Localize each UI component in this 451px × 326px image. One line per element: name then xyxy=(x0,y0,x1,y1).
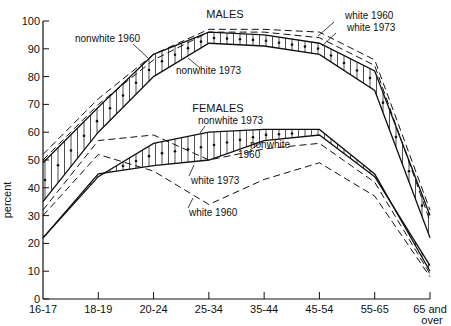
y-tick-label: 10 xyxy=(28,265,40,277)
hatch-dot xyxy=(278,133,281,136)
hatch-dot xyxy=(148,155,151,158)
male-white-1960-label: white 1960 xyxy=(344,10,394,21)
female-nonwhite-1960-label-b: 1960 xyxy=(238,149,261,160)
hatch-dot xyxy=(96,120,99,123)
male-white-1973-label: white 1973 xyxy=(346,22,396,33)
y-axis-label: percent xyxy=(1,182,13,219)
hatch-dot xyxy=(408,170,411,173)
hatch-dot xyxy=(239,139,242,142)
hatch-dot xyxy=(304,45,307,48)
hatch-dot xyxy=(70,149,73,152)
y-tick-label: 80 xyxy=(28,71,40,83)
females-white-1973-line xyxy=(43,135,430,274)
hatch-dot xyxy=(343,62,346,65)
hatch-dot xyxy=(356,69,359,72)
x-tick-label: 18-19 xyxy=(84,303,112,315)
hatch-dot xyxy=(161,60,164,63)
x-tick-label: 20-24 xyxy=(140,303,168,315)
hatch-dot xyxy=(200,146,203,149)
female-white-1960-label: white 1960 xyxy=(188,207,238,218)
x-tick-label: 25-34 xyxy=(195,303,223,315)
label-leader-line xyxy=(318,22,334,36)
male-nonwhite-1960-label: nonwhite 1960 xyxy=(75,33,140,44)
hatch-dot xyxy=(278,41,281,44)
hatch-dot xyxy=(213,144,216,147)
hatch-dot xyxy=(421,204,424,207)
y-tick-label: 20 xyxy=(28,237,40,249)
hatch-dot xyxy=(187,47,190,50)
annotations: percent MALES FEMALES nonwhite 1960 nonw… xyxy=(1,8,396,218)
hatch-dot xyxy=(382,101,385,104)
series-lines xyxy=(43,22,430,277)
y-tick-label: 30 xyxy=(28,210,40,222)
hatch-dot xyxy=(395,136,398,139)
hatch-dot xyxy=(174,150,177,153)
hatch-dot xyxy=(317,47,320,50)
hatch-dot xyxy=(161,152,164,155)
hatch-dot xyxy=(226,37,229,40)
male-nonwhite-1973-label: nonwhite 1973 xyxy=(176,65,241,76)
x-tick-label: over xyxy=(421,314,443,326)
x-tick-label: 45-54 xyxy=(305,303,333,315)
males-label: MALES xyxy=(206,8,243,20)
labor-force-participation-chart: 010203040506070809010016-1718-1920-2425-… xyxy=(0,0,451,326)
hatch-dot xyxy=(291,132,294,135)
label-leader-line xyxy=(133,44,148,58)
hatch-dot xyxy=(200,40,203,43)
hatch-dot xyxy=(122,165,125,168)
hatch-dot xyxy=(265,134,268,137)
females-label: FEMALES xyxy=(192,102,243,114)
y-tick-label: 70 xyxy=(28,98,40,110)
hatch-dot xyxy=(83,135,86,138)
hatch-dot xyxy=(135,160,138,163)
hatch-dot xyxy=(330,54,333,57)
y-tick-label: 40 xyxy=(28,182,40,194)
axes: 010203040506070809010016-1718-1920-2425-… xyxy=(22,15,447,326)
y-tick-label: 90 xyxy=(28,43,40,55)
x-tick-label: 35-44 xyxy=(250,303,278,315)
males-white-1973-line xyxy=(43,32,430,221)
hatch-dot xyxy=(239,38,242,41)
hatch-dot xyxy=(57,164,60,167)
y-tick-label: 50 xyxy=(28,154,40,166)
hatch-dot xyxy=(226,141,229,144)
female-nonwhite-1973-label: nonwhite 1973 xyxy=(198,115,263,126)
label-leader-line xyxy=(200,126,205,133)
hatch-dot xyxy=(44,179,47,182)
hatch-dot xyxy=(109,107,112,110)
hatch-dot xyxy=(122,94,125,97)
hatch-dot xyxy=(252,39,255,42)
hatch-dot xyxy=(135,81,138,84)
y-tick-label: 100 xyxy=(22,15,40,27)
hatch-dot xyxy=(174,53,177,56)
female-white-1973-label: white 1973 xyxy=(190,175,240,186)
hatch-dot xyxy=(369,77,372,80)
hatch-dot xyxy=(148,69,151,72)
hatch-dot xyxy=(291,43,294,46)
x-tick-label: 55-65 xyxy=(361,303,389,315)
hatch-dot xyxy=(213,37,216,40)
x-tick-label: 16-17 xyxy=(29,303,57,315)
hatch-dot xyxy=(265,39,268,42)
y-tick-label: 60 xyxy=(28,126,40,138)
